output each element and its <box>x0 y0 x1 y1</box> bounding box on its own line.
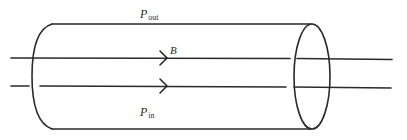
label-p-in: Pin <box>139 105 155 120</box>
lower-field-line-right <box>294 87 391 88</box>
label-b: B <box>170 44 177 56</box>
label-p-out: Pout <box>139 7 159 22</box>
flux-tube-diagram: Pout B Pin <box>0 0 407 140</box>
upper-field-line-right <box>297 59 392 60</box>
cylinder-right-end <box>294 24 330 129</box>
upper-field-line-left <box>11 58 290 59</box>
lower-field-line-left <box>40 86 286 87</box>
cylinder-left-end <box>32 24 52 129</box>
